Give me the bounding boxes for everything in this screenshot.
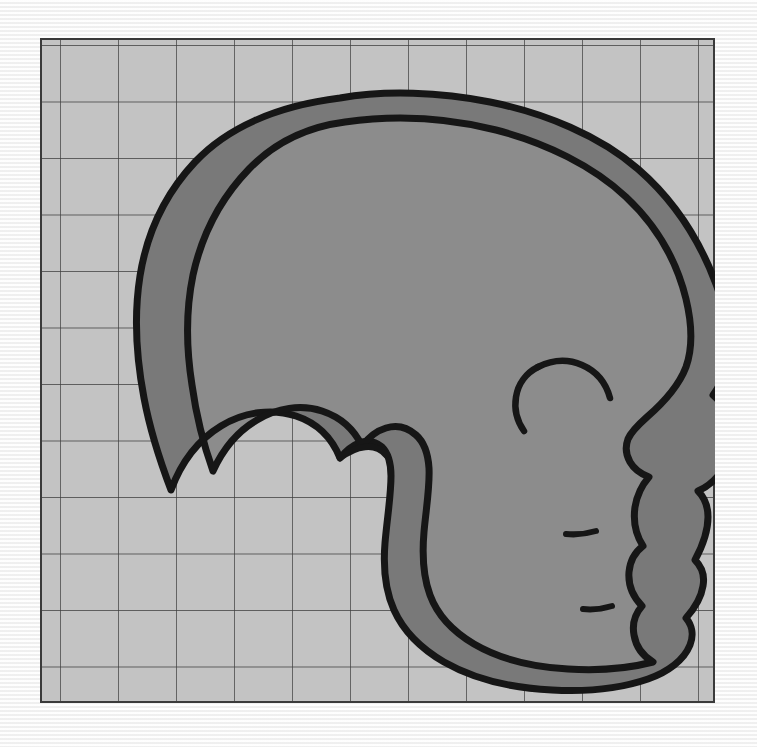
figure-kind-label: anatomical-outline-diagram	[0, 0, 1, 1]
skull-profile-figure	[40, 38, 715, 703]
figure-panel	[40, 38, 715, 703]
page-root: hominin cranium, lateral (left-facing-ri…	[0, 0, 757, 747]
figure-subject-label: hominin cranium, lateral (left-facing-ri…	[0, 0, 1, 1]
maxilla-notch-line	[566, 531, 596, 534]
mandible-notch-line	[583, 606, 612, 609]
